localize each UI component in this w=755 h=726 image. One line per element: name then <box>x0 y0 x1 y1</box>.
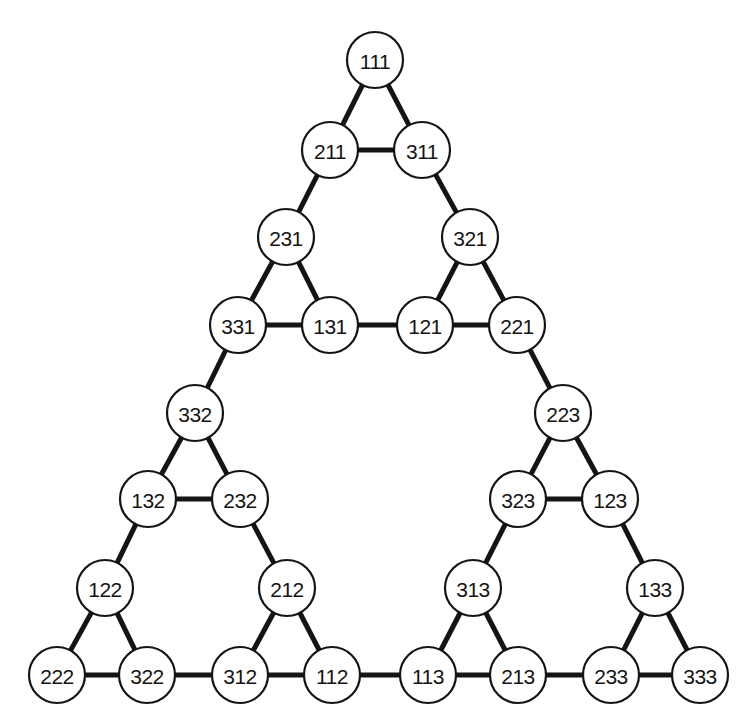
graph-edge <box>435 174 457 214</box>
graph-node[interactable]: 131 <box>302 297 358 353</box>
graph-node-label: 131 <box>313 315 347 338</box>
graph-node-label: 121 <box>408 315 442 338</box>
graph-node-label: 132 <box>131 489 165 512</box>
graph-node[interactable]: 233 <box>583 647 639 703</box>
graph-node[interactable]: 113 <box>400 647 456 703</box>
graph-node-label: 321 <box>453 227 487 250</box>
graph-edge <box>298 174 318 213</box>
graph-node[interactable]: 312 <box>212 647 268 703</box>
graph-edge <box>531 437 551 475</box>
graph-node[interactable]: 232 <box>212 471 268 527</box>
graph-node[interactable]: 311 <box>394 122 450 178</box>
graph-node[interactable]: 331 <box>210 297 266 353</box>
graph-node[interactable]: 132 <box>120 471 176 527</box>
graph-edge <box>207 349 226 388</box>
graph-edge <box>342 84 363 126</box>
graph-edge <box>667 612 687 651</box>
graph-node[interactable]: 321 <box>442 209 498 265</box>
graph-node-label: 231 <box>269 227 303 250</box>
graph-canvas: 1112113112313213311311212213322231322323… <box>0 0 755 726</box>
graph-node-label: 212 <box>270 578 304 601</box>
graph-node[interactable]: 123 <box>582 471 638 527</box>
graph-edge <box>437 261 457 301</box>
graph-node[interactable]: 133 <box>627 560 683 616</box>
graph-node-label: 313 <box>456 578 490 601</box>
graph-node[interactable]: 313 <box>445 560 501 616</box>
graph-node[interactable]: 322 <box>119 647 175 703</box>
graph-edge <box>485 612 505 651</box>
graph-node-label: 323 <box>501 489 535 512</box>
graph-node-label: 332 <box>178 403 212 426</box>
graph-node-label: 122 <box>88 578 122 601</box>
node-layer: 1112113112313213311311212213322231322323… <box>29 32 728 703</box>
graph-node[interactable]: 323 <box>490 471 546 527</box>
graph-node-label: 112 <box>316 665 348 688</box>
graph-edge <box>483 261 505 301</box>
graph-node[interactable]: 212 <box>259 560 315 616</box>
graph-edge <box>299 612 319 651</box>
graph-node[interactable]: 333 <box>672 647 728 703</box>
graph-node[interactable]: 222 <box>29 647 85 703</box>
graph-edge <box>623 612 643 651</box>
graph-node[interactable]: 213 <box>490 647 546 703</box>
graph-node[interactable]: 221 <box>489 297 545 353</box>
graph-edge <box>117 523 137 563</box>
graph-node[interactable]: 332 <box>167 385 223 441</box>
graph-edge <box>530 349 551 389</box>
hanoi-state-graph-figure: 1112113112313213311311212213322231322323… <box>0 0 755 726</box>
graph-edge <box>576 437 597 476</box>
graph-node-label: 133 <box>638 578 672 601</box>
graph-node-label: 331 <box>221 315 255 338</box>
graph-edge <box>208 437 228 475</box>
graph-edge <box>622 523 643 564</box>
graph-node[interactable]: 223 <box>535 385 591 441</box>
graph-node[interactable]: 231 <box>258 209 314 265</box>
graph-node[interactable]: 111 <box>347 32 403 88</box>
graph-node-label: 211 <box>314 140 346 163</box>
edge-layer <box>70 84 688 675</box>
graph-edge <box>388 84 410 126</box>
graph-node[interactable]: 122 <box>77 560 133 616</box>
graph-node-label: 221 <box>500 315 534 338</box>
graph-node-label: 123 <box>593 489 627 512</box>
graph-edge <box>440 612 460 651</box>
graph-node-label: 333 <box>683 665 717 688</box>
graph-node-label: 113 <box>412 665 444 688</box>
graph-edge <box>251 261 273 302</box>
graph-node-label: 232 <box>223 489 257 512</box>
graph-node-label: 111 <box>360 50 390 73</box>
graph-edge <box>117 612 136 650</box>
graph-node-label: 322 <box>130 665 164 688</box>
graph-edge <box>298 261 318 301</box>
graph-edge <box>485 523 506 564</box>
graph-node-label: 233 <box>594 665 628 688</box>
graph-node-label: 222 <box>40 665 74 688</box>
graph-node-label: 223 <box>546 403 580 426</box>
graph-node[interactable]: 121 <box>397 297 453 353</box>
graph-node-label: 312 <box>223 665 257 688</box>
graph-edge <box>253 612 274 651</box>
graph-node[interactable]: 211 <box>302 122 358 178</box>
graph-edge <box>253 523 275 564</box>
graph-edge <box>70 612 92 652</box>
graph-edge <box>161 437 182 476</box>
graph-node-label: 311 <box>406 140 438 163</box>
graph-node-label: 213 <box>501 665 535 688</box>
graph-node[interactable]: 112 <box>304 647 360 703</box>
